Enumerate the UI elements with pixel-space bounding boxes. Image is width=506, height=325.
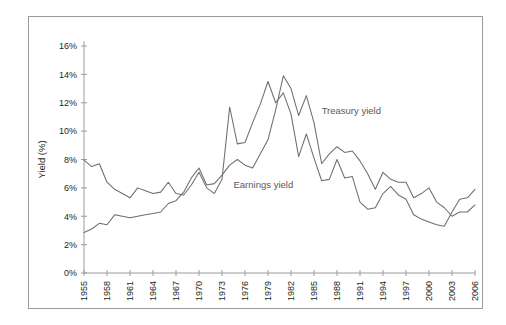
x-tick-label: 1961 [125, 281, 135, 301]
figure-background: 0%2%4%6%8%10%12%14%16% 19551958196119641… [0, 0, 506, 325]
x-tick-label: 1991 [355, 281, 365, 301]
x-tick-label: 1967 [171, 281, 181, 301]
x-axis: 1955195819611964196719701973197619791982… [79, 270, 480, 301]
series-annotations: Treasury yieldEarnings yield [234, 105, 381, 190]
x-tick-label: 1985 [309, 281, 319, 301]
y-tick-label: 8% [64, 155, 77, 165]
y-tick-label: 0% [64, 268, 77, 278]
series-line [84, 76, 475, 233]
y-tick-label: 6% [64, 183, 77, 193]
x-tick-label: 1982 [286, 281, 296, 301]
y-tick-label: 12% [59, 98, 77, 108]
x-tick-label: 1988 [332, 281, 342, 301]
yield-comparison-chart: 0%2%4%6%8%10%12%14%16% 19551958196119641… [29, 17, 482, 308]
y-tick-label: 2% [64, 240, 77, 250]
y-tick-label: 10% [59, 126, 77, 136]
x-tick-label: 1955 [79, 281, 89, 301]
x-tick-label: 1973 [217, 281, 227, 301]
y-axis: 0%2%4%6%8%10%12%14%16% [59, 41, 87, 278]
x-tick-label: 2006 [470, 281, 480, 301]
y-tick-label: 14% [59, 70, 77, 80]
x-tick-label: 1964 [148, 281, 158, 301]
x-tick-label: 1997 [401, 281, 411, 301]
y-tick-label: 4% [64, 212, 77, 222]
x-tick-label: 1958 [102, 281, 112, 301]
series-line [84, 81, 475, 226]
y-tick-label: 16% [59, 41, 77, 51]
x-tick-label: 2000 [424, 281, 434, 301]
series-annotation: Treasury yield [322, 105, 381, 116]
x-tick-label: 1994 [378, 281, 388, 301]
x-tick-label: 1979 [263, 281, 273, 301]
chart-frame: 0%2%4%6%8%10%12%14%16% 19551958196119641… [28, 16, 483, 309]
x-tick-label: 1970 [194, 281, 204, 301]
x-tick-label: 2003 [447, 281, 457, 301]
series-lines [84, 76, 475, 233]
x-tick-label: 1976 [240, 281, 250, 301]
series-annotation: Earnings yield [234, 179, 294, 190]
y-axis-title: Yield (%) [36, 140, 47, 178]
